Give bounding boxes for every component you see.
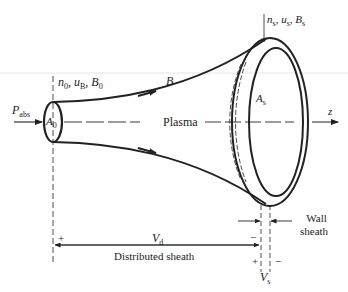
power-absorbed-label: Pabs (12, 104, 30, 119)
distributed-voltage-label: Vd (152, 232, 163, 247)
distributed-plus-sign: + (58, 233, 64, 244)
distributed-minus-sign: − (250, 232, 256, 243)
wall-sheath-label: Wall sheath (300, 213, 328, 237)
plasma-expansion-diagram: n0, uB, B0 ns, us, Bs B Pabs AA0 As Plas… (0, 0, 348, 292)
outlet-area-label: As (256, 93, 266, 107)
sheath-voltage-label: Vs (260, 271, 270, 286)
diagram-drawing (0, 0, 348, 292)
sheath-minus-sign: − (275, 256, 281, 267)
sheath-plus-sign: + (252, 256, 258, 267)
inlet-state-label: n0, uB, B0 (58, 76, 103, 91)
z-axis-label: z (328, 106, 332, 117)
plasma-label: Plasma (163, 116, 198, 128)
distributed-sheath-label: Distributed sheath (114, 251, 194, 262)
inlet-area-label: AA0 (46, 116, 57, 130)
field-line-label: B (166, 75, 173, 87)
outlet-state-label: ns, us, Bs (267, 14, 305, 28)
